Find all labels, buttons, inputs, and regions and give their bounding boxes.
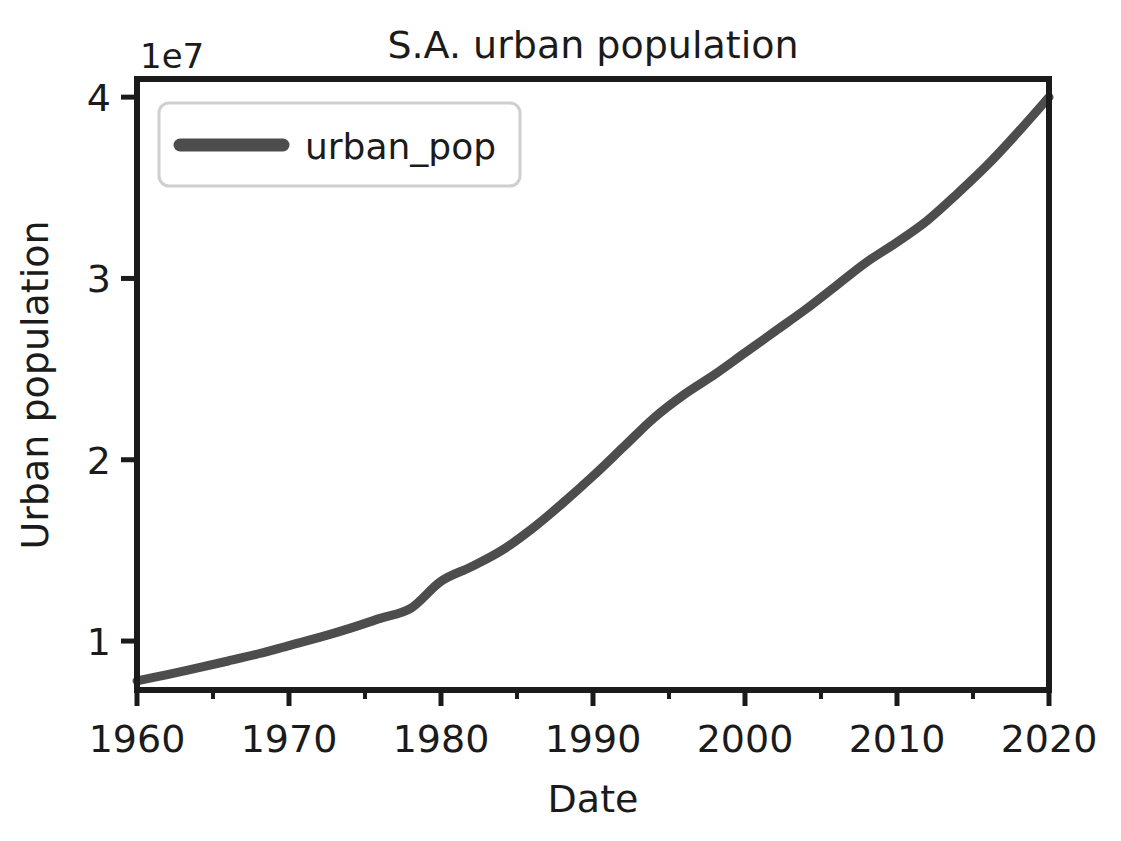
y-axis-label: Urban population [13,220,57,549]
y-tick-label: 4 [87,76,111,120]
chart-figure: S.A. urban population 1e7 Date Urban pop… [0,0,1121,841]
chart-title: S.A. urban population [387,23,798,67]
x-tick-label: 1980 [393,717,490,761]
chart-legend[interactable]: urban_pop [159,103,520,186]
line-chart-canvas: S.A. urban population 1e7 Date Urban pop… [0,0,1121,841]
x-tick-label: 2010 [849,717,946,761]
x-tick-label: 1990 [545,717,642,761]
x-axis-ticks: 1960197019801990200020102020 [89,690,1098,761]
x-tick-label: 1960 [89,717,186,761]
y-axis-offset-label: 1e7 [140,36,204,76]
y-axis-ticks: 1234 [87,76,137,664]
x-axis-label: Date [548,777,639,821]
x-tick-label: 1970 [241,717,338,761]
x-tick-label: 2000 [697,717,794,761]
y-tick-label: 2 [87,439,111,483]
x-tick-label: 2020 [1001,717,1098,761]
legend-entry-label: urban_pop [305,126,496,167]
y-tick-label: 3 [87,257,111,301]
y-tick-label: 1 [87,620,111,664]
